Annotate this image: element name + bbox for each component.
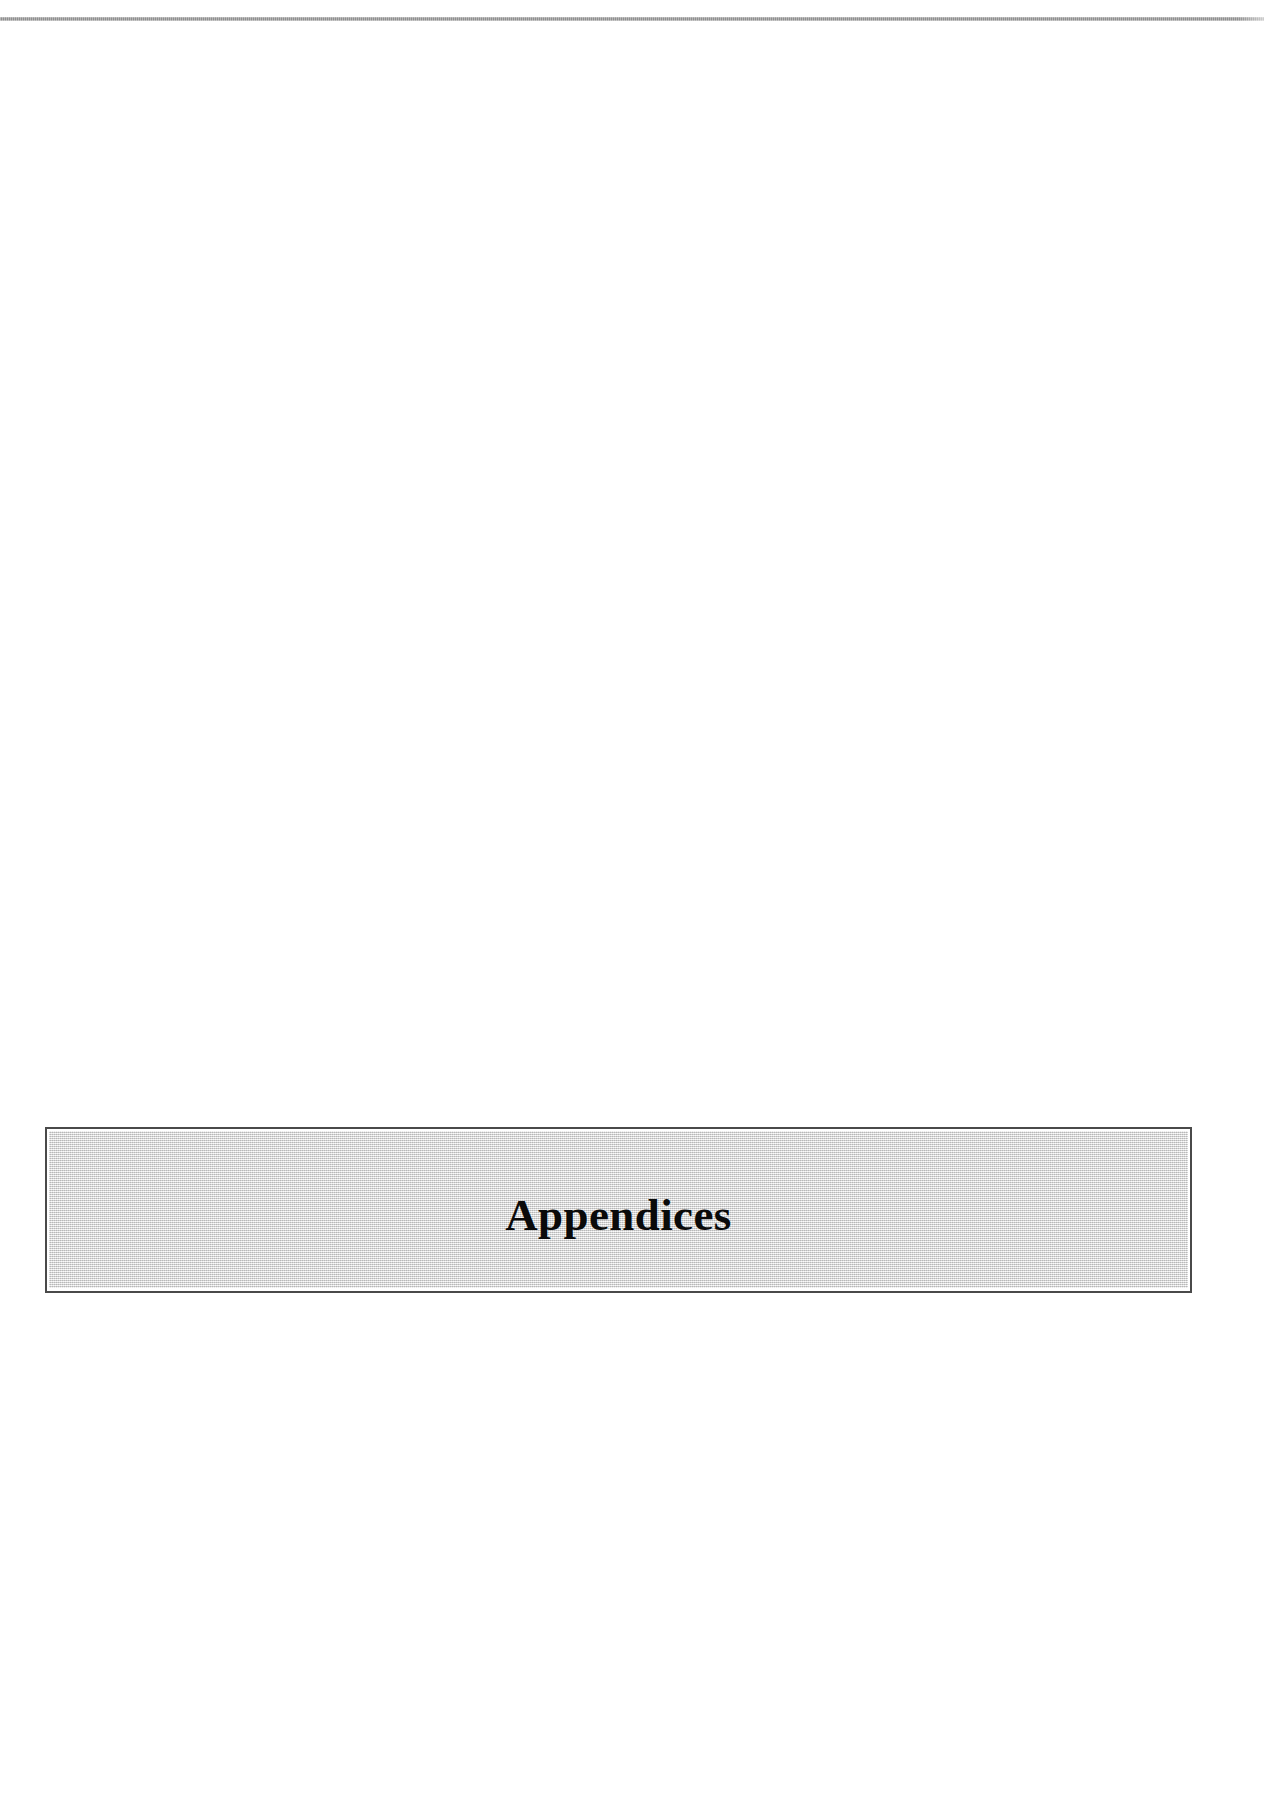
document-page: Appendices — [0, 0, 1266, 1814]
page-blank-upper-region — [0, 30, 1266, 1120]
appendices-section-banner: Appendices — [45, 1127, 1192, 1293]
header-rule — [0, 17, 1264, 21]
page-blank-lower-region — [0, 1296, 1266, 1814]
page-title: Appendices — [505, 1193, 732, 1238]
